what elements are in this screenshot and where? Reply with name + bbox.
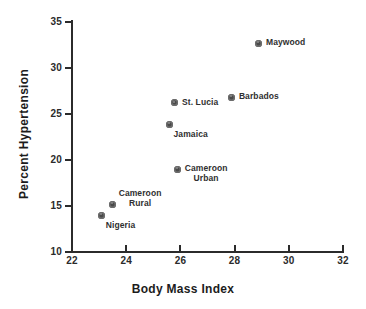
data-point-label-st-lucia: St. Lucia	[182, 97, 218, 107]
y-axis-title: Percent Hypertension	[17, 34, 31, 234]
data-point-barbados[interactable]	[228, 94, 235, 101]
data-point-label-maywood: Maywood	[266, 37, 305, 47]
y-axis-line	[71, 20, 73, 252]
x-tick-24	[125, 245, 127, 251]
scatter-chart: 101520253035 222426283032 Body Mass Inde…	[0, 0, 366, 309]
x-tick-30	[288, 245, 290, 251]
x-tick-32	[342, 245, 344, 251]
data-point-label-nigeria: Nigeria	[106, 220, 136, 230]
x-tick-label-24: 24	[114, 255, 138, 266]
x-axis-line	[71, 251, 344, 253]
y-tick-label-15: 15	[38, 200, 62, 211]
data-point-st-lucia[interactable]	[171, 99, 178, 106]
y-tick-label-20: 20	[38, 154, 62, 165]
x-tick-26	[179, 245, 181, 251]
x-tick-label-30: 30	[277, 255, 301, 266]
x-tick-label-22: 22	[60, 255, 84, 266]
y-tick-35	[65, 21, 71, 23]
data-point-cameroon-rural[interactable]	[109, 201, 116, 208]
x-tick-label-26: 26	[168, 255, 192, 266]
y-tick-label-30: 30	[38, 62, 62, 73]
y-tick-label-10: 10	[38, 246, 62, 257]
data-point-label-jamaica: Jamaica	[174, 129, 208, 139]
y-tick-20	[65, 159, 71, 161]
y-tick-10	[65, 251, 71, 253]
x-tick-label-28: 28	[223, 255, 247, 266]
x-tick-label-32: 32	[331, 255, 355, 266]
data-point-cameroon-urban[interactable]	[174, 166, 181, 173]
data-point-jamaica[interactable]	[166, 121, 173, 128]
y-tick-label-35: 35	[38, 16, 62, 27]
y-tick-label-25: 25	[38, 108, 62, 119]
data-point-label-barbados: Barbados	[239, 91, 279, 101]
y-tick-25	[65, 113, 71, 115]
x-tick-28	[234, 245, 236, 251]
data-point-nigeria[interactable]	[98, 212, 105, 219]
data-point-maywood[interactable]	[255, 40, 262, 47]
data-point-label-cameroon-rural: CameroonRural	[119, 188, 162, 208]
y-tick-15	[65, 205, 71, 207]
x-axis-title: Body Mass Index	[0, 282, 366, 296]
data-point-label-cameroon-urban: CameroonUrban	[185, 163, 228, 183]
x-tick-22	[71, 245, 73, 251]
y-tick-30	[65, 67, 71, 69]
